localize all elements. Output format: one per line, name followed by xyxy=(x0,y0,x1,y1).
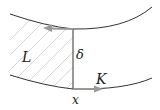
label-flux-k: K xyxy=(95,71,108,87)
lower-boundary-curve xyxy=(10,75,152,89)
label-gap-delta: δ xyxy=(76,47,84,62)
label-position-x: x xyxy=(72,93,79,107)
diagram-canvas: L δ K x xyxy=(0,0,160,110)
upper-boundary-curve xyxy=(10,7,152,29)
label-region-l: L xyxy=(21,49,31,65)
upper-arrow-icon xyxy=(43,25,73,33)
